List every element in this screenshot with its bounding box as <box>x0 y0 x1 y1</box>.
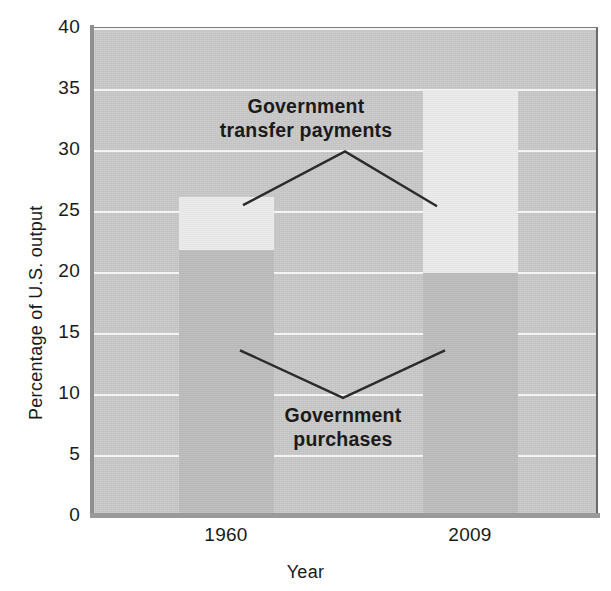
annotation-government-transfer-payments: Government transfer payments <box>186 95 426 143</box>
y-axis-title: Percentage of U.S. output <box>26 205 47 420</box>
x-axis-line <box>90 513 600 518</box>
gridline-25 <box>92 211 596 213</box>
y-tick-10: 10 <box>58 382 80 404</box>
chart-figure: 0510152025303540 Percentage of U.S. outp… <box>0 0 611 591</box>
x-tick-2009: 2009 <box>448 524 491 546</box>
gridline-15 <box>92 333 596 335</box>
y-tick-25: 25 <box>58 199 80 221</box>
bar-segment-2009-purchases <box>423 273 518 517</box>
y-axis-line <box>90 25 94 517</box>
y-tick-5: 5 <box>69 443 80 465</box>
y-tick-0: 0 <box>69 504 80 526</box>
y-tick-40: 40 <box>58 16 80 38</box>
bar-segment-1960-purchases <box>179 250 274 517</box>
gridline-20 <box>92 272 596 274</box>
bar-segment-2009-transfers <box>423 90 518 273</box>
y-tick-35: 35 <box>58 77 80 99</box>
gridline-30 <box>92 150 596 152</box>
bar-segment-1960-transfers <box>179 197 274 249</box>
y-tick-30: 30 <box>58 138 80 160</box>
y-tick-20: 20 <box>58 260 80 282</box>
x-tick-1960: 1960 <box>204 524 247 546</box>
x-axis-title: Year <box>0 562 611 583</box>
gridline-40 <box>92 28 596 30</box>
y-tick-15: 15 <box>58 321 80 343</box>
annotation-government-purchases: Government purchases <box>223 404 463 452</box>
gridline-10 <box>92 394 596 396</box>
gridline-5 <box>92 455 596 457</box>
gridline-35 <box>92 89 596 91</box>
